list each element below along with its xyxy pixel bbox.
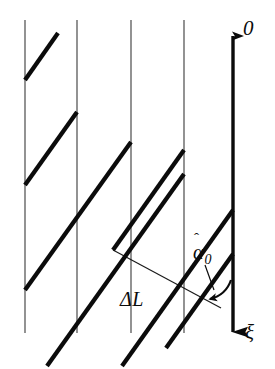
diagonal-wavefront-line (25, 33, 58, 80)
diagonal-wavefront-line (25, 112, 77, 185)
diagonal-wavefront-line (47, 174, 184, 366)
origin-label: 0 (243, 18, 254, 39)
figure-root: 0 ξ ΔL ˆ α 0 (0, 0, 275, 369)
diagonal-wavefront-line (166, 254, 233, 348)
delta-l-label: ΔL (120, 289, 144, 309)
diagonal-wavefront-line (113, 150, 184, 250)
alpha-symbol: ˆ α (193, 242, 204, 262)
angle-alpha-label: ˆ α 0 (193, 242, 211, 262)
diagonal-wavefront-lines (25, 33, 233, 366)
diagram-canvas (0, 0, 275, 369)
alpha-hat-accent: ˆ (194, 231, 199, 246)
alpha-subscript: 0 (205, 252, 212, 267)
xi-axis-label: ξ (245, 322, 254, 343)
